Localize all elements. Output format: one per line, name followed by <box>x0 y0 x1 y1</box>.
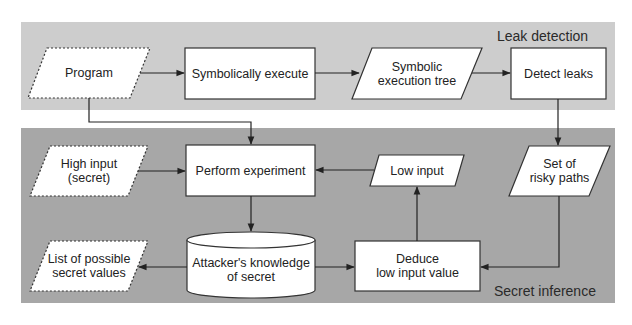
detect-leaks-node: Detect leaks <box>511 48 606 99</box>
symbolic-tree-line2: execution tree <box>378 74 457 88</box>
risky-paths-line1: Set of <box>543 157 576 171</box>
high-input-line2: (secret) <box>68 171 110 185</box>
symbolically-execute-label: Symbolically execute <box>192 67 309 81</box>
high-input-node: High input(secret) <box>40 146 138 196</box>
low-input-label: Low input <box>390 164 444 178</box>
possible-values-line1: List of possible <box>48 252 131 266</box>
possible-values-line2: secret values <box>52 266 126 280</box>
program-label: Program <box>65 66 113 80</box>
deduce-line1: Deduce <box>396 252 439 266</box>
knowledge-line1: Attacker's knowledge <box>192 256 310 270</box>
symbolic-tree-line1: Symbolic <box>392 60 443 74</box>
perform-experiment-label: Perform experiment <box>196 164 306 178</box>
risky-paths-node: Set ofrisky paths <box>519 146 600 196</box>
symbolically-execute-node: Symbolically execute <box>185 48 315 99</box>
risky-paths-line2: risky paths <box>530 171 590 185</box>
secret-inference-label: Secret inference <box>494 283 596 299</box>
deduce-line2: low input value <box>376 266 459 280</box>
leak-detection-label: Leak detection <box>497 28 588 44</box>
deduce-node: Deducelow input value <box>355 241 480 291</box>
knowledge-node: Attacker's knowledgeof secret <box>187 250 315 290</box>
knowledge-line2: of secret <box>227 270 275 284</box>
perform-experiment-node: Perform experiment <box>186 145 315 196</box>
program-node: Program <box>38 48 140 98</box>
symbolic-tree-node: Symbolicexecution tree <box>360 48 474 99</box>
possible-values-node: List of possiblesecret values <box>40 241 138 291</box>
low-input-node: Low input <box>374 155 460 186</box>
high-input-line1: High input <box>61 157 117 171</box>
detect-leaks-label: Detect leaks <box>524 67 593 81</box>
